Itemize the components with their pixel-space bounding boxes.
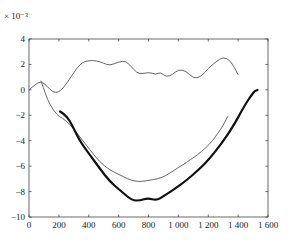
y-tick-label: −8 <box>15 187 25 197</box>
x-tick-label: 1 400 <box>228 220 249 230</box>
x-tick-label: 600 <box>112 220 126 230</box>
line-chart: 02004006008001 0001 2001 4001 600420−2−4… <box>0 0 292 250</box>
series-line-bold <box>60 90 257 201</box>
ticks-group: 02004006008001 0001 2001 4001 600420−2−4… <box>11 34 279 230</box>
y-tick-label: 2 <box>21 59 26 69</box>
x-tick-label: 200 <box>52 220 66 230</box>
x-tick-label: 1 600 <box>258 220 279 230</box>
y-tick-label: −2 <box>15 110 25 120</box>
x-tick-label: 0 <box>27 220 32 230</box>
y-tick-label: 0 <box>21 85 26 95</box>
x-tick-label: 1 200 <box>198 220 219 230</box>
series-group <box>29 58 258 201</box>
y-tick-label: −10 <box>11 212 26 222</box>
y-tick-label: 4 <box>21 34 26 44</box>
x-tick-label: 1 000 <box>168 220 189 230</box>
series-line-upper-thin <box>29 58 238 93</box>
y-tick-label: −4 <box>15 136 25 146</box>
x-tick-label: 400 <box>82 220 96 230</box>
y-tick-label: −6 <box>15 161 25 171</box>
x-tick-label: 800 <box>142 220 156 230</box>
y-scale-multiplier: × 10⁻³ <box>4 11 28 21</box>
series-line-lower-thin <box>41 81 228 181</box>
